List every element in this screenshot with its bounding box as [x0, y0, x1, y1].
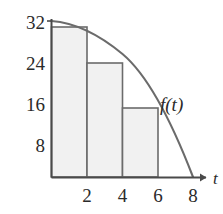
y-tick-label-24: 24 — [26, 53, 46, 74]
y-tick-label-16: 16 — [26, 94, 45, 115]
bar-rect-3 — [123, 108, 159, 177]
curve-label-ft: f(t) — [160, 94, 183, 116]
x-axis-label-t: t — [213, 169, 219, 188]
y-tick-label-32: 32 — [26, 12, 45, 33]
x-tick-label-8: 8 — [188, 185, 198, 206]
x-tick-label-6: 6 — [153, 185, 163, 206]
bar-rect-1 — [52, 27, 88, 177]
plot-area: 32 24 16 8 2 4 6 8 f(t) t — [0, 0, 223, 214]
riemann-sum-figure: 32 24 16 8 2 4 6 8 f(t) t — [0, 0, 223, 214]
x-tick-label-2: 2 — [82, 185, 92, 206]
y-tick-label-8: 8 — [36, 135, 46, 156]
x-axis-arrow-icon — [200, 174, 207, 182]
bar-rect-2 — [87, 63, 123, 177]
bar-group — [52, 27, 159, 177]
x-tick-label-4: 4 — [118, 185, 128, 206]
